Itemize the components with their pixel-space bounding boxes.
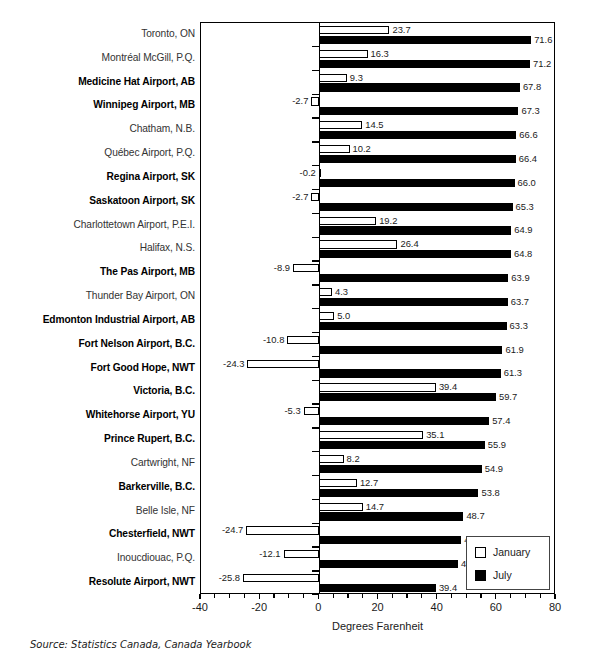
- category-tick: [312, 237, 319, 238]
- category-label: Toronto, ON: [0, 28, 195, 39]
- bar-value-january: 10.2: [353, 144, 371, 154]
- bar-july: [319, 512, 463, 520]
- category-label: The Pas Airport, MB: [0, 266, 195, 277]
- bar-value-july: 61.9: [505, 345, 523, 355]
- category-label: Prince Rupert, B.C.: [0, 433, 195, 444]
- bar-july: [319, 274, 508, 282]
- x-tick-label: 40: [431, 601, 443, 613]
- bar-value-july: 67.8: [523, 82, 541, 92]
- bar-value-july: 65.3: [516, 202, 534, 212]
- x-tick-minor: [229, 594, 230, 598]
- bar-july: [319, 60, 530, 68]
- bar-january: [319, 74, 347, 82]
- bar-value-january: -0.2: [285, 168, 316, 178]
- bar-value-january: -12.1: [250, 549, 281, 559]
- x-tick-major: [554, 594, 555, 599]
- x-tick-minor: [525, 594, 526, 598]
- x-tick-major: [436, 594, 437, 599]
- x-axis: -40-20020406080: [200, 594, 555, 595]
- category-label: Montréal McGill, P.Q.: [0, 52, 195, 63]
- bar-value-july: 55.9: [488, 440, 506, 450]
- bar-value-july: 63.9: [511, 273, 529, 283]
- bar-value-january: -2.7: [277, 192, 308, 202]
- x-tick-minor: [421, 594, 422, 598]
- bar-january: [319, 50, 367, 58]
- bar-january: [304, 407, 320, 415]
- category-label: Thunder Bay Airport, ON: [0, 290, 195, 301]
- category-label: Regina Airport, SK: [0, 171, 195, 182]
- category-label: Chesterfield, NWT: [0, 528, 195, 539]
- bar-july: [319, 298, 507, 306]
- x-tick-minor: [466, 594, 467, 598]
- category-label: Cartwright, NF: [0, 457, 195, 468]
- bar-value-january: 16.3: [371, 49, 389, 59]
- legend-label-january: January: [493, 546, 530, 558]
- category-label: Chatham, N.B.: [0, 123, 195, 134]
- category-tick: [312, 284, 319, 285]
- bar-january: [319, 145, 349, 153]
- bar-july: [319, 322, 506, 330]
- category-label: Fort Nelson Airport, B.C.: [0, 338, 195, 349]
- x-tick-label: 60: [490, 601, 502, 613]
- category-tick: [312, 141, 319, 142]
- bar-value-july: 66.0: [518, 178, 536, 188]
- bar-value-july: 64.9: [514, 225, 532, 235]
- category-tick: [312, 570, 319, 571]
- bar-january: [319, 479, 357, 487]
- category-tick: [312, 427, 319, 428]
- bar-january: [319, 431, 423, 439]
- bar-value-january: 12.7: [360, 478, 378, 488]
- bar-value-january: 26.4: [400, 239, 418, 249]
- x-tick-minor: [303, 594, 304, 598]
- bar-value-january: 8.2: [347, 454, 360, 464]
- category-label: Victoria, B.C.: [0, 385, 195, 396]
- x-tick-minor: [244, 594, 245, 598]
- x-tick-minor: [214, 594, 215, 598]
- bar-july: [319, 346, 502, 354]
- category-tick: [312, 94, 319, 95]
- bar-value-july: 66.4: [519, 154, 537, 164]
- bar-july: [319, 393, 496, 401]
- category-tick: [312, 475, 319, 476]
- bar-january: [319, 383, 436, 391]
- bar-value-january: 9.3: [350, 73, 363, 83]
- legend-label-july: July: [493, 569, 512, 581]
- legend-item-july: July: [475, 569, 512, 581]
- category-tick: [312, 451, 319, 452]
- bar-value-january: 14.7: [366, 502, 384, 512]
- bar-january: [311, 193, 319, 201]
- x-tick-minor: [288, 594, 289, 598]
- x-tick-label: 0: [315, 601, 321, 613]
- x-tick-minor: [510, 594, 511, 598]
- bar-july: [319, 179, 514, 187]
- bar-july: [319, 203, 512, 211]
- bar-july: [319, 489, 478, 497]
- bar-value-july: 48.7: [466, 511, 484, 521]
- bar-value-july: 39.4: [439, 583, 457, 593]
- x-tick-minor: [333, 594, 334, 598]
- bar-value-january: -25.8: [209, 573, 240, 583]
- bar-july: [319, 560, 458, 568]
- bar-january: [319, 217, 376, 225]
- legend-swatch-january-icon: [475, 547, 486, 558]
- bar-value-january: -24.7: [212, 525, 243, 535]
- category-label: Medicine Hat Airport, AB: [0, 76, 195, 87]
- legend-item-january: January: [475, 546, 530, 558]
- bar-value-july: 71.6: [534, 35, 552, 45]
- bar-january: [311, 97, 319, 105]
- bar-january: [319, 121, 362, 129]
- chart-legend: January July: [466, 536, 550, 590]
- bar-value-january: 35.1: [426, 430, 444, 440]
- category-label: Charlottetown Airport, P.E.I.: [0, 219, 195, 230]
- category-label: Saskatoon Airport, SK: [0, 195, 195, 206]
- category-label: Whitehorse Airport, YU: [0, 409, 195, 420]
- bar-july: [319, 417, 489, 425]
- bar-july: [319, 131, 516, 139]
- bar-july: [319, 36, 531, 44]
- bar-value-january: -5.3: [270, 406, 301, 416]
- x-tick-label: -40: [192, 601, 208, 613]
- category-label: Resolute Airport, NWT: [0, 576, 195, 587]
- bar-january: [319, 169, 321, 177]
- bar-value-january: -8.9: [259, 263, 290, 273]
- bar-value-july: 61.3: [504, 368, 522, 378]
